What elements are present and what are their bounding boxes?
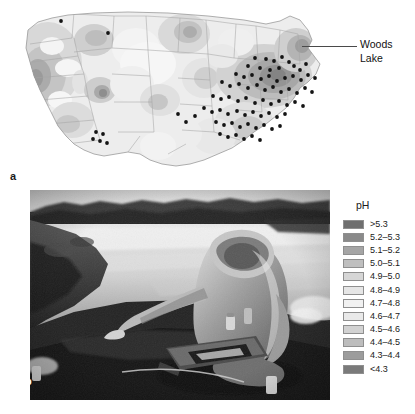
legend-row: 5.0–5.1	[343, 257, 415, 270]
legend-swatch	[343, 233, 364, 242]
legend-swatch	[343, 246, 364, 255]
sampling-site-dot	[243, 113, 247, 117]
panel-a-map: Woods Lake a	[0, 0, 340, 190]
legend-label: 4.7–4.8	[370, 299, 400, 308]
sampling-site-dot	[227, 95, 231, 99]
legend-label: 4.9–5.0	[370, 272, 400, 281]
sampling-site-dot	[287, 60, 291, 64]
sampling-site-dot	[283, 76, 287, 80]
sampling-site-dot	[106, 31, 110, 35]
sampling-site-dot	[254, 126, 258, 130]
sampling-site-dot	[176, 112, 180, 116]
sampling-site-dot	[244, 96, 248, 100]
sampling-site-dot	[261, 98, 265, 102]
sampling-site-dot	[98, 139, 102, 143]
sampling-site-dot	[287, 87, 291, 91]
sampling-site-dot	[202, 106, 206, 110]
sampling-site-dot	[299, 78, 303, 82]
sampling-site-dot	[263, 88, 267, 92]
sampling-site-dot	[218, 108, 222, 112]
sampling-site-dot	[303, 86, 307, 90]
sampling-site-dot	[251, 110, 255, 114]
sampling-site-dot	[253, 101, 257, 105]
sampling-site-dot	[211, 94, 215, 98]
sampling-site-dot	[250, 73, 254, 77]
sampling-site-dot	[250, 134, 254, 138]
legend-row: >5.3	[343, 218, 415, 231]
legend-swatch	[343, 351, 364, 360]
sampling-site-dot	[220, 80, 224, 84]
sampling-site-dot	[277, 99, 281, 103]
legend-label: 5.1–5.2	[370, 246, 400, 255]
legend-label: 4.3–4.4	[370, 351, 400, 360]
annotation-leader-line	[302, 46, 357, 47]
sampling-site-dot	[283, 112, 287, 116]
sampling-site-dot	[259, 77, 263, 81]
legend-label: 4.4–4.5	[370, 338, 400, 347]
sampling-site-dot	[235, 109, 239, 113]
legend-swatch	[343, 338, 364, 347]
sampling-site-dot	[310, 90, 314, 94]
legend-row: 4.9–5.0	[343, 270, 415, 283]
panel-b-letter: b	[25, 376, 32, 387]
sampling-site-dot	[242, 137, 246, 141]
sampling-site-dot	[218, 132, 222, 136]
legend-row: 4.4–4.5	[343, 336, 415, 349]
legend-swatch	[343, 365, 364, 374]
sampling-site-dot	[258, 66, 262, 70]
sampling-site-dot	[278, 124, 282, 128]
us-ph-contour-map	[8, 4, 330, 184]
sampling-site-dot	[277, 66, 281, 70]
sampling-site-dot	[246, 64, 250, 68]
legend-swatch	[343, 259, 364, 268]
map-contour-surface	[8, 4, 330, 184]
legend-swatch	[343, 299, 364, 308]
legend-row: <4.3	[343, 363, 415, 376]
sampling-site-dot	[271, 85, 275, 89]
sampling-site-dot	[105, 141, 109, 145]
sampling-site-dot	[226, 112, 230, 116]
sampling-site-dot	[91, 137, 95, 141]
sampling-site-dot	[313, 76, 317, 80]
legend-rows: >5.35.2–5.35.1–5.25.0–5.14.9–5.04.8–4.94…	[343, 218, 415, 376]
sampling-site-dot	[280, 55, 284, 59]
sampling-site-dot	[193, 114, 197, 118]
legend-label: 5.0–5.1	[370, 259, 400, 268]
sampling-site-dot	[268, 68, 272, 72]
legend-swatch	[343, 272, 364, 281]
legend-swatch	[343, 325, 364, 334]
legend-label: 4.5–4.6	[370, 325, 400, 334]
legend-swatch	[343, 220, 364, 229]
sampling-site-dot	[228, 84, 232, 88]
sampling-site-dot	[101, 132, 105, 136]
sampling-site-dot	[272, 59, 276, 63]
sampling-site-dot	[59, 19, 63, 23]
legend-swatch	[343, 312, 364, 321]
sampling-site-dot	[267, 74, 271, 78]
sampling-site-dot	[94, 130, 98, 134]
sampling-site-dot	[291, 74, 295, 78]
sampling-site-dot	[214, 120, 218, 124]
figure-container: Woods Lake a	[0, 0, 415, 414]
sampling-site-dot	[295, 91, 299, 95]
sampling-site-dot	[242, 75, 246, 79]
sampling-site-dot	[259, 114, 263, 118]
sampling-site-dot	[234, 72, 238, 76]
sampling-site-dot	[230, 121, 234, 125]
legend-swatch	[343, 286, 364, 295]
sampling-site-dot	[210, 110, 214, 114]
sampling-site-dot	[258, 138, 262, 142]
sampling-site-dot	[236, 99, 240, 103]
panel-a-letter: a	[10, 171, 16, 182]
sampling-site-dot	[270, 127, 274, 131]
legend-label: <4.3	[370, 365, 388, 374]
legend-label: 4.6–4.7	[370, 312, 400, 321]
sampling-site-dot	[237, 82, 241, 86]
woods-lake-annotation: Woods Lake	[302, 35, 414, 75]
legend-row: 5.1–5.2	[343, 244, 415, 257]
sampling-site-dot	[246, 86, 250, 90]
legend-label: 4.8–4.9	[370, 286, 400, 295]
sampling-site-dot	[275, 79, 279, 83]
sampling-site-dot	[255, 83, 259, 87]
sampling-site-dot	[269, 102, 273, 106]
